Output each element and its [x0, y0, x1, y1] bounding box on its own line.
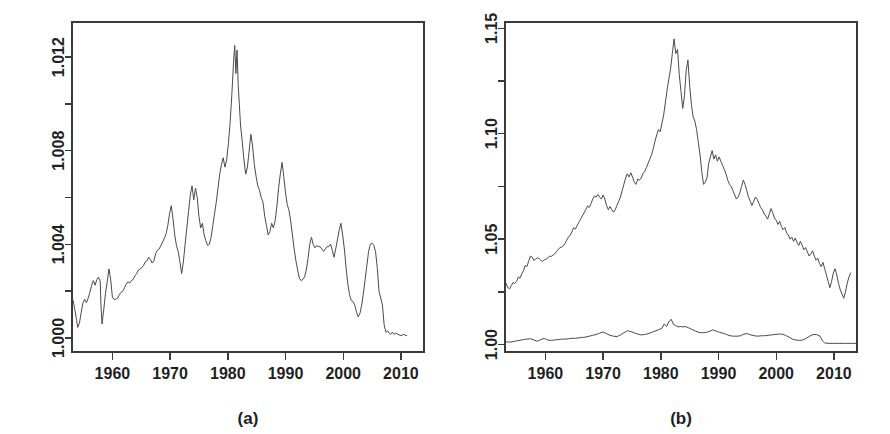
x-tick-label: 1970 [585, 365, 621, 382]
panel-a-caption: (a) [238, 409, 259, 428]
panel-a-y-ticks [65, 57, 72, 338]
x-tick-label: 1980 [643, 365, 679, 382]
x-tick-label: 2000 [325, 365, 361, 382]
panel-b-series-group [506, 39, 856, 343]
y-tick-label: 1.012 [51, 37, 68, 77]
x-tick-label: 2000 [758, 365, 794, 382]
y-tick-label: 1.15 [484, 13, 501, 44]
x-tick-label: 1960 [95, 365, 131, 382]
panel-b: 1.001.051.101.15 19601970198019902000201… [445, 0, 890, 434]
x-tick-label: 1960 [528, 365, 564, 382]
panel-a-x-ticks [112, 352, 401, 360]
y-tick-label: 1.10 [484, 118, 501, 149]
panel-a-plot-area: 1.0001.0041.0081.012 1960197019801990200… [51, 22, 425, 382]
panel-a: 1.0001.0041.0081.012 1960197019801990200… [0, 0, 445, 434]
y-tick-label: 1.004 [51, 224, 68, 264]
series-path-series-b-lower [506, 319, 856, 343]
panel-a-svg: 1.0001.0041.0081.012 1960197019801990200… [0, 0, 445, 434]
panel-a-series-group [73, 45, 407, 335]
panel-b-plot-box [505, 22, 857, 352]
series-path-series-a [73, 45, 407, 335]
x-tick-label: 1980 [210, 365, 246, 382]
y-tick-label: 1.008 [51, 131, 68, 171]
series-path-series-b-upper [506, 39, 851, 298]
figure-container: 1.0001.0041.0081.012 1960197019801990200… [0, 0, 890, 434]
panel-b-y-ticks [498, 28, 505, 344]
panel-b-x-ticks [545, 352, 834, 360]
y-tick-label: 1.00 [484, 329, 501, 360]
panel-b-x-tick-labels: 196019701980199020002010 [528, 365, 852, 382]
panel-a-x-tick-labels: 196019701980199020002010 [95, 365, 419, 382]
x-tick-label: 1990 [268, 365, 304, 382]
y-tick-label: 1.000 [51, 318, 68, 358]
panel-b-svg: 1.001.051.101.15 19601970198019902000201… [445, 0, 890, 434]
panel-a-y-tick-labels: 1.0001.0041.0081.012 [51, 37, 68, 358]
panel-b-caption: (b) [670, 409, 692, 428]
panel-b-y-tick-labels: 1.001.051.101.15 [484, 13, 501, 361]
x-tick-label: 2010 [816, 365, 852, 382]
x-tick-label: 2010 [383, 365, 419, 382]
x-tick-label: 1990 [701, 365, 737, 382]
x-tick-label: 1970 [152, 365, 188, 382]
panel-a-plot-box [72, 22, 424, 352]
panel-b-plot-area: 1.001.051.101.15 19601970198019902000201… [484, 13, 858, 382]
y-tick-label: 1.05 [484, 224, 501, 255]
